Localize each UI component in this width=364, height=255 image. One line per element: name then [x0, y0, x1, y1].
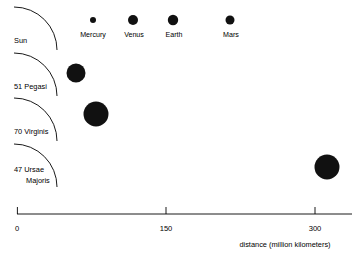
star-label-47-ursae-majoris-line1: 47 Ursae — [14, 165, 44, 174]
star-label-47-ursae-majoris-line2: Majoris — [26, 176, 50, 185]
planet-label-venus: Venus — [124, 31, 144, 39]
system-row-70-virginis — [84, 102, 109, 127]
x-axis-title: distance (million kilometers) — [239, 240, 330, 249]
star-label-51-pegasi: 51 Pegasi — [14, 82, 47, 91]
x-axis: 0 150 300 distance (million kilometers) — [15, 207, 352, 249]
x-axis-ticklabel-0: 0 — [15, 224, 19, 233]
system-row-47-ursae-majoris — [315, 155, 340, 180]
star-label-70-virginis: 70 Virginis — [14, 127, 49, 136]
planet-label-mars: Mars — [223, 31, 239, 39]
planetary-systems-figure: Sun 51 Pegasi 70 Virginis 47 Ursae Major… — [0, 0, 364, 255]
x-axis-ticklabel-300: 300 — [309, 224, 322, 233]
system-row-51-pegasi — [67, 64, 86, 83]
star-label-sun: Sun — [14, 36, 27, 45]
planet-dot-mercury — [90, 17, 96, 23]
planet-label-mercury: Mercury — [80, 31, 106, 39]
planet-dot-earth — [168, 15, 178, 25]
planet-dot-venus — [128, 15, 138, 25]
planet-dot-51-pegasi-b — [67, 64, 86, 83]
x-axis-ticklabel-150: 150 — [160, 224, 173, 233]
planet-dot-47-ursae-majoris-b — [315, 155, 340, 180]
chart-canvas: Sun 51 Pegasi 70 Virginis 47 Ursae Major… — [0, 0, 364, 255]
planet-label-earth: Earth — [166, 31, 183, 39]
planet-dot-mars — [226, 16, 235, 25]
planet-dot-70-virginis-b — [84, 102, 109, 127]
star-arcs-group — [14, 7, 57, 187]
system-row-sun: Mercury Venus Earth Mars — [80, 15, 239, 39]
